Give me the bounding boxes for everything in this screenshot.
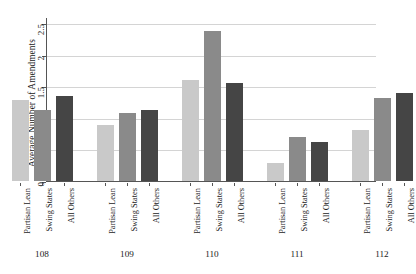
- bar: [374, 98, 391, 181]
- x-tick-mark: [149, 183, 150, 186]
- bar: [352, 130, 369, 181]
- x-axis-label: Swing States: [301, 188, 309, 232]
- x-tick-mark: [319, 183, 320, 186]
- bar: [119, 113, 136, 181]
- bar: [182, 80, 199, 181]
- y-tick-label: 0: [37, 182, 46, 187]
- bar: [226, 83, 243, 181]
- y-tick-label: 2.5: [37, 24, 46, 35]
- x-tick-mark: [212, 183, 213, 186]
- x-tick-mark: [42, 183, 43, 186]
- x-axis-label: Partisan Lean: [109, 188, 117, 234]
- bar: [12, 100, 29, 181]
- x-tick-mark: [64, 183, 65, 186]
- x-axis-label: All Others: [153, 188, 161, 223]
- x-tick-mark: [360, 183, 361, 186]
- y-tick-label: 1.5: [37, 87, 46, 98]
- x-axis-label: Partisan Lean: [194, 188, 202, 234]
- x-group-label: 112: [352, 250, 413, 259]
- x-axis-label: Swing States: [216, 188, 224, 232]
- x-tick-mark: [404, 183, 405, 186]
- bar: [267, 163, 284, 181]
- x-axis-label: Partisan Lean: [279, 188, 287, 234]
- bar: [311, 142, 328, 181]
- x-axis-label: All Others: [68, 188, 76, 223]
- bar: [97, 125, 114, 181]
- x-tick-mark: [190, 183, 191, 186]
- x-group-label: 110: [182, 250, 243, 259]
- x-axis-label: All Others: [408, 188, 416, 223]
- bar: [34, 110, 51, 181]
- bars-container: [47, 18, 376, 181]
- x-tick-mark: [127, 183, 128, 186]
- x-group-label: 108: [12, 250, 73, 259]
- x-axis-label: Partisan Lean: [24, 188, 32, 234]
- x-group-label: 111: [267, 250, 328, 259]
- x-axis-label: Swing States: [386, 188, 394, 232]
- bar: [56, 96, 73, 181]
- x-tick-mark: [297, 183, 298, 186]
- x-group-label: 109: [97, 250, 158, 259]
- x-axis-label: All Others: [323, 188, 331, 223]
- x-axis-label: Swing States: [131, 188, 139, 232]
- x-tick-mark: [20, 183, 21, 186]
- bar: [204, 31, 221, 181]
- x-axis-label: Swing States: [46, 188, 54, 232]
- x-axis-labels: Partisan LeanSwing StatesAll Others108Pa…: [47, 186, 376, 246]
- x-axis-label: Partisan Lean: [364, 188, 372, 234]
- bar: [141, 110, 158, 181]
- x-axis-label: All Others: [238, 188, 246, 223]
- x-axis-line: [46, 181, 376, 182]
- x-tick-mark: [382, 183, 383, 186]
- y-tick-label: 2: [37, 56, 46, 61]
- x-tick-mark: [275, 183, 276, 186]
- x-tick-mark: [105, 183, 106, 186]
- bar: [396, 93, 413, 181]
- bar: [289, 137, 306, 181]
- x-tick-mark: [234, 183, 235, 186]
- plot-area: 0.511.522.5: [46, 18, 376, 182]
